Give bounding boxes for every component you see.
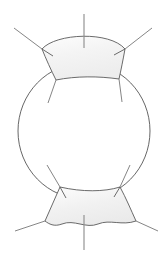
bottom-patch-group (45, 187, 136, 225)
bottom-patch-surface (45, 187, 136, 225)
figure-root: Sphere with two curvilinear patches (0, 0, 166, 264)
sphere-patches-diagram (0, 0, 166, 264)
